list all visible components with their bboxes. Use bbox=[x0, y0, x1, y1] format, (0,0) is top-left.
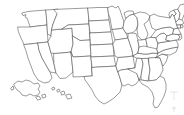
state-WA[interactable] bbox=[22, 10, 47, 27]
state-MN[interactable] bbox=[108, 6, 124, 30]
state-OR[interactable] bbox=[18, 25, 48, 45]
state-RI[interactable] bbox=[181, 25, 183, 28]
state-OK[interactable] bbox=[91, 56, 116, 68]
state-SD[interactable] bbox=[89, 20, 111, 33]
us-outline-map bbox=[0, 0, 184, 115]
inset-hawaii[interactable] bbox=[52, 87, 72, 99]
us-map-svg bbox=[0, 0, 184, 115]
state-CT[interactable] bbox=[177, 25, 181, 28]
region-west bbox=[18, 8, 92, 83]
region-northeast bbox=[150, 4, 184, 41]
state-NY[interactable] bbox=[150, 14, 178, 30]
state-ND[interactable] bbox=[88, 8, 109, 22]
state-NE[interactable] bbox=[90, 32, 113, 45]
state-FL[interactable] bbox=[139, 76, 166, 108]
faint-corner-marks bbox=[170, 92, 178, 112]
state-UT[interactable] bbox=[48, 29, 73, 54]
state-AL[interactable] bbox=[141, 58, 150, 81]
state-KS[interactable] bbox=[91, 44, 115, 57]
inset-alaska[interactable] bbox=[11, 80, 46, 100]
state-AZ[interactable] bbox=[54, 52, 73, 79]
